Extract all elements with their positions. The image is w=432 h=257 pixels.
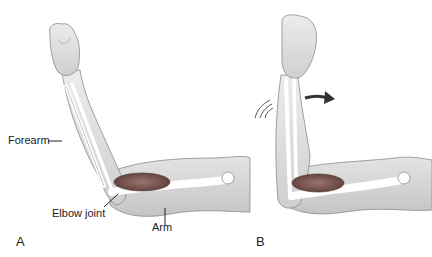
arrow-right-curved-icon [305,91,335,104]
label-forearm: Forearm [8,134,50,146]
panel-a-arm-illustration [50,23,250,216]
panel-label-b: B [256,234,265,249]
motion-lines-icon [255,100,273,118]
label-arm: Arm [152,221,172,233]
panel-b-arm-illustration [276,15,432,214]
label-elbow-joint: Elbow joint [52,207,105,219]
panel-label-a: A [16,234,25,249]
